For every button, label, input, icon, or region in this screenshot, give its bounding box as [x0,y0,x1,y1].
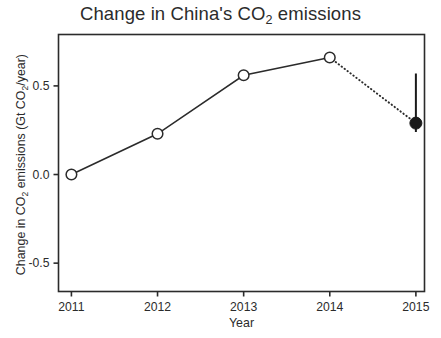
x-tick-label: 2012 [144,300,171,314]
series-projected [330,58,416,124]
data-point-open [66,169,77,180]
y-axis-ticks: 0.50.0-0.5 [28,79,58,270]
x-tick-label: 2015 [402,300,429,314]
data-point-filled [410,117,422,129]
plot-area: 0.50.0-0.5 20112012201320142015 [0,0,441,338]
x-tick-label: 2011 [58,300,84,314]
data-point-open [238,70,249,81]
x-tick-label: 2014 [316,300,343,314]
data-point-open [152,128,163,139]
y-tick-label: 0.0 [33,168,50,182]
data-markers-open [66,52,335,180]
x-tick-label: 2013 [230,300,257,314]
series-observed [71,58,329,175]
y-tick-label: -0.5 [28,256,49,270]
data-point-open [324,52,335,63]
projected-line [330,58,416,124]
chart-figure: Change in China's CO2 emissions Change i… [0,0,441,338]
y-tick-label: 0.5 [33,79,50,93]
x-axis-ticks: 20112012201320142015 [58,292,429,314]
data-markers-filled [410,117,422,129]
observed-line [71,58,329,175]
